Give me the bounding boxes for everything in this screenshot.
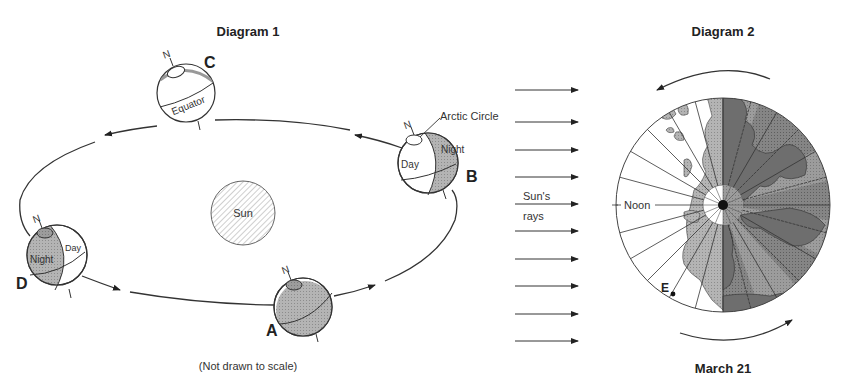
diagram-1: Diagram 1 Sun <box>16 24 499 372</box>
noon-label: Noon <box>624 199 650 211</box>
north-label-d: N <box>31 212 42 225</box>
sun-label: Sun <box>233 207 253 219</box>
rotation-arrow-top <box>657 71 770 90</box>
night-label-b: Night <box>441 144 465 155</box>
sun-rays-label-line2: rays <box>523 210 544 222</box>
scale-note: (Not drawn to scale) <box>199 360 297 372</box>
north-label-a: N <box>280 263 291 276</box>
earth-position-d: N Night Day D <box>16 212 87 298</box>
day-label-b: Day <box>401 159 419 170</box>
earth-position-c: N Equator C <box>157 48 216 130</box>
rotation-arrow-bottom <box>680 320 792 340</box>
position-letter-d: D <box>16 275 28 292</box>
day-label-d: Day <box>65 243 82 253</box>
position-letter-c: C <box>204 54 216 71</box>
diagram-2-title: Diagram 2 <box>692 24 755 39</box>
arctic-circle-label: Arctic Circle <box>440 110 499 122</box>
night-label-d: Night <box>30 254 54 265</box>
earth-position-b: N Day Night Arctic Circle B <box>398 110 499 199</box>
earth-position-a: N A <box>266 263 334 342</box>
position-letter-b: B <box>466 168 478 185</box>
sun-rays-label-line1: Sun's <box>523 190 551 202</box>
diagram-1-title: Diagram 1 <box>217 24 280 39</box>
date-label: March 21 <box>695 361 751 376</box>
north-label-c: N <box>161 48 172 61</box>
diagram-canvas: Diagram 1 Sun <box>0 0 842 390</box>
point-e-marker <box>671 292 676 297</box>
point-e-label: E <box>661 281 669 295</box>
sun: Sun <box>211 181 275 245</box>
position-letter-a: A <box>266 322 278 339</box>
north-label-b: N <box>402 118 413 131</box>
diagram-2: Diagram 2 <box>610 24 838 376</box>
